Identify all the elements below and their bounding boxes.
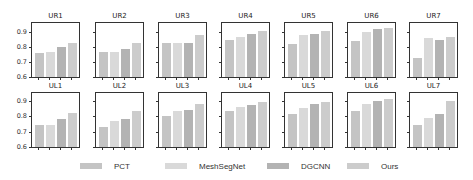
panel-title: UL3 (158, 82, 207, 90)
bar-ours (132, 43, 141, 78)
bar-meshsegnet (299, 108, 308, 147)
y-tick (282, 32, 284, 33)
x-tick (438, 78, 439, 80)
bar-ours (446, 101, 455, 148)
bar-ours (321, 31, 330, 78)
x-tick (365, 78, 366, 80)
x-tick (354, 78, 355, 80)
legend-swatch-dgcnn (267, 163, 289, 169)
legend-item-dgcnn: DGCNN (267, 161, 330, 171)
bar-meshsegnet (46, 125, 55, 147)
legend-swatch-pct (80, 163, 102, 169)
y-tick (345, 101, 347, 102)
x-tick (313, 78, 314, 80)
x-tick (198, 148, 199, 150)
bar-meshsegnet (236, 37, 245, 78)
x-tick (228, 78, 229, 80)
y-tick (29, 47, 31, 48)
x-tick (135, 148, 136, 150)
bar-pct (225, 111, 234, 147)
y-tick (282, 116, 284, 117)
panel-axes (221, 22, 270, 78)
bar-dgcnn (435, 40, 444, 78)
x-tick (71, 78, 72, 80)
bar-pct (351, 41, 360, 77)
panel-title: UL1 (31, 82, 80, 90)
panel-title: UR1 (31, 12, 80, 20)
y-tick (156, 77, 158, 78)
y-tick (29, 116, 31, 117)
x-tick (354, 148, 355, 150)
bar-meshsegnet (362, 32, 371, 77)
bar-ours (195, 35, 204, 77)
panel-axes (158, 22, 207, 78)
x-tick (261, 148, 262, 150)
y-tick (407, 147, 409, 148)
x-tick (438, 148, 439, 150)
panel-axes (409, 92, 458, 148)
y-tick (156, 101, 158, 102)
bar-meshsegnet (110, 52, 119, 78)
panel-axes (284, 92, 333, 148)
x-tick (365, 148, 366, 150)
bar-pct (35, 53, 44, 77)
y-tick (407, 101, 409, 102)
x-tick (113, 148, 114, 150)
legend-label-pct: PCT (114, 162, 130, 171)
y-tick (156, 147, 158, 148)
y-tick (282, 132, 284, 133)
panel-title: UR6 (347, 12, 396, 20)
x-tick (239, 78, 240, 80)
x-tick (387, 148, 388, 150)
y-tick (345, 77, 347, 78)
x-tick (198, 78, 199, 80)
y-tick-label: 0.6 (7, 143, 27, 151)
panel-axes (31, 22, 80, 78)
y-tick (282, 147, 284, 148)
y-tick (93, 77, 95, 78)
x-tick (49, 78, 50, 80)
panel-axes (95, 92, 144, 148)
x-tick (124, 148, 125, 150)
x-tick (71, 148, 72, 150)
bar-ours (68, 43, 77, 78)
y-tick-label: 0.9 (7, 28, 27, 36)
bar-dgcnn (57, 119, 66, 147)
bar-meshsegnet (173, 43, 182, 78)
x-tick (387, 78, 388, 80)
x-tick (449, 78, 450, 80)
x-tick (291, 78, 292, 80)
bar-dgcnn (247, 34, 256, 78)
y-tick-label: 0.7 (7, 58, 27, 66)
legend-item-meshsegnet: MeshSegNet (165, 161, 245, 171)
x-tick (427, 148, 428, 150)
x-tick (38, 78, 39, 80)
bar-dgcnn (184, 43, 193, 78)
y-tick (282, 47, 284, 48)
x-tick (291, 148, 292, 150)
y-tick (93, 132, 95, 133)
bar-ours (384, 99, 393, 147)
panel-title: UR3 (158, 12, 207, 20)
bar-meshsegnet (299, 35, 308, 77)
y-tick (345, 62, 347, 63)
y-tick-label: 0.7 (7, 128, 27, 136)
panel-axes (158, 92, 207, 148)
panel-title: UL2 (95, 82, 144, 90)
x-tick (239, 148, 240, 150)
x-tick (187, 78, 188, 80)
x-tick (49, 148, 50, 150)
bar-pct (35, 125, 44, 147)
legend-label-dgcnn: DGCNN (301, 162, 330, 171)
bar-pct (162, 43, 171, 78)
bar-dgcnn (184, 110, 193, 147)
bar-dgcnn (373, 101, 382, 148)
y-tick (29, 77, 31, 78)
x-tick (302, 148, 303, 150)
legend-label-meshsegnet: MeshSegNet (199, 162, 245, 171)
bar-pct (288, 114, 297, 147)
x-tick (228, 148, 229, 150)
bar-pct (99, 127, 108, 147)
y-tick (407, 116, 409, 117)
legend-item-pct: PCT (80, 161, 130, 171)
